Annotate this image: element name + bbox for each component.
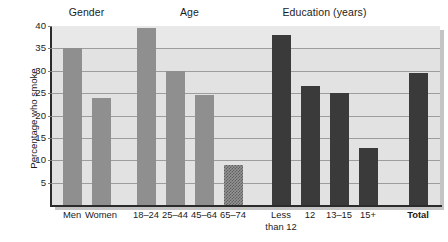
- bar-13-15: [330, 93, 349, 205]
- bar-45-64: [195, 95, 214, 205]
- y-axis-tick-labels: 510152025303540: [26, 0, 46, 242]
- y-tick-label: 20: [26, 111, 46, 121]
- y-tick-label: 15: [26, 133, 46, 143]
- y-tick-label: 35: [26, 43, 46, 53]
- bar-18-24: [137, 28, 156, 205]
- y-tick-mark: [48, 183, 52, 184]
- y-tick-label: 30: [26, 66, 46, 76]
- bar-65-74: [224, 165, 243, 205]
- bar-less-than-12: [272, 35, 291, 205]
- bar-total: [409, 73, 428, 205]
- y-tick-mark: [48, 116, 52, 117]
- x-tick-label-15-: 15+: [340, 209, 396, 221]
- y-tick-label: 25: [26, 88, 46, 98]
- y-tick-mark: [48, 71, 52, 72]
- group-header-age: Age: [120, 6, 260, 18]
- bar-men: [63, 48, 82, 205]
- plot-area: [52, 26, 440, 205]
- bar-12: [301, 86, 320, 205]
- bar-15-: [359, 148, 378, 205]
- y-tick-label: 40: [26, 21, 46, 31]
- y-tick-mark: [48, 160, 52, 161]
- gridline: [52, 93, 440, 94]
- gridline: [52, 48, 440, 49]
- x-tick-label-total: Total: [390, 209, 446, 221]
- bar-women: [92, 98, 111, 205]
- y-tick-label: 5: [26, 178, 46, 188]
- y-tick-mark: [48, 138, 52, 139]
- y-tick-mark: [48, 93, 52, 94]
- group-header-education: Education (years): [255, 6, 395, 18]
- y-tick-mark: [48, 26, 52, 27]
- y-tick-mark: [48, 48, 52, 49]
- plot-top-band: [52, 26, 440, 48]
- gridline: [52, 71, 440, 72]
- bar-25-44: [166, 71, 185, 205]
- x-tick-label-line2: than 12: [253, 221, 309, 233]
- x-axis-line: [50, 205, 442, 207]
- plot-shadow-right: [440, 30, 444, 207]
- smoking-percentage-bar-chart: Gender Age Education (years) Percentage …: [0, 0, 448, 242]
- y-tick-label: 10: [26, 155, 46, 165]
